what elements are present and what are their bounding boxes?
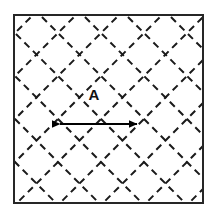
diagram-svg: A [0,0,214,215]
dimension-label: A [89,86,100,103]
figure-container: A [0,0,214,215]
